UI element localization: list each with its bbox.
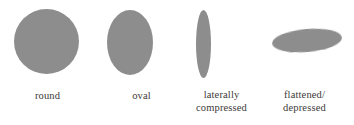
shape-slot-laterally-compressed	[188, 0, 255, 84]
specimen-flattened-depressed: flattened/ depressed	[255, 0, 354, 125]
shape-terminology-figure: round oval laterally compressed flattene…	[0, 0, 354, 125]
round-shape-icon	[14, 9, 79, 74]
shape-slot-round	[0, 0, 95, 84]
shape-slot-oval	[95, 0, 188, 84]
specimen-laterally-compressed: laterally compressed	[188, 0, 255, 125]
caption-round-line-1: round	[0, 89, 95, 102]
caption-flattened-depressed-line-2: depressed	[255, 101, 354, 114]
shape-slot-flattened-depressed	[255, 0, 354, 84]
laterally-compressed-shape-icon	[196, 10, 211, 78]
caption-round: round	[0, 89, 95, 102]
specimen-round: round	[0, 0, 95, 125]
specimen-oval: oval	[95, 0, 188, 125]
flattened-depressed-shape-icon	[271, 26, 343, 55]
caption-flattened-depressed-line-1: flattened/	[255, 88, 354, 101]
caption-oval: oval	[95, 89, 188, 102]
oval-shape-icon	[107, 10, 153, 75]
caption-laterally-compressed-line-1: laterally	[188, 88, 255, 101]
caption-laterally-compressed-line-2: compressed	[188, 101, 255, 114]
caption-laterally-compressed: laterally compressed	[188, 88, 255, 114]
caption-flattened-depressed: flattened/ depressed	[255, 88, 354, 114]
caption-oval-line-1: oval	[95, 89, 188, 102]
